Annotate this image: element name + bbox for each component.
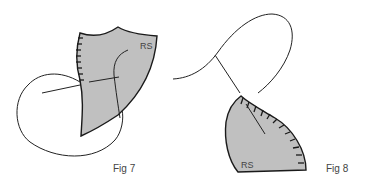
figure-caption: Fig 7 <box>113 163 136 174</box>
figure-7: RS Fig 7 <box>17 27 157 174</box>
figure-caption: Fig 8 <box>326 163 349 174</box>
sewing-diagram: RS Fig 7 RS Fig 8 <box>0 0 365 192</box>
fabric-label-rs: RS <box>241 160 254 170</box>
figure-8: RS Fig 8 <box>173 14 349 174</box>
thread-diagonal <box>215 55 240 93</box>
fabric-label-rs: RS <box>140 41 153 51</box>
fabric-piece <box>226 96 307 172</box>
